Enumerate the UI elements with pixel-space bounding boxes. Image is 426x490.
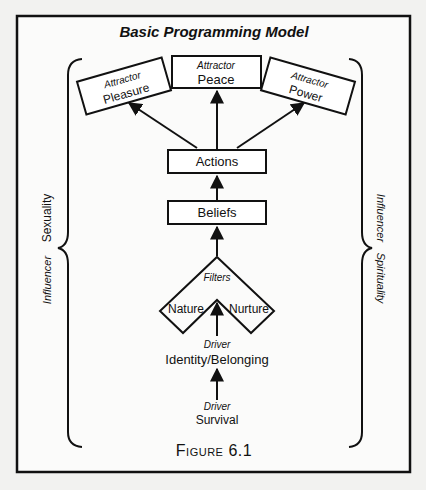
driver-survival-name: Survival bbox=[196, 413, 239, 427]
actions-label: Actions bbox=[196, 154, 239, 169]
filters-label: Filters bbox=[203, 272, 230, 283]
diagram-title: Basic Programming Model bbox=[119, 23, 309, 40]
driver-identity-label: Driver bbox=[204, 339, 231, 350]
attractor-peace-label: Attractor bbox=[196, 60, 235, 71]
influencer-left-name: Sexuality bbox=[40, 194, 54, 243]
driver-survival-label: Driver bbox=[204, 401, 231, 412]
beliefs-label: Beliefs bbox=[197, 205, 237, 220]
influencer-right-label: Influencer bbox=[375, 194, 387, 244]
beliefs-box: Beliefs bbox=[168, 201, 266, 224]
actions-box: Actions bbox=[168, 150, 266, 173]
figure-caption: Figure 6.1 bbox=[176, 442, 252, 459]
attractor-peace-name: Peace bbox=[198, 72, 235, 87]
diagram-canvas: Basic Programming Model Sexuality Influe… bbox=[0, 0, 426, 490]
driver-identity-name: Identity/Belonging bbox=[165, 352, 268, 367]
influencer-right-name: Spirituality bbox=[375, 253, 387, 305]
filter-nurture: Nurture bbox=[229, 302, 269, 316]
influencer-left-label: Influencer bbox=[41, 255, 53, 305]
filter-nature: Nature bbox=[168, 302, 204, 316]
attractor-peace-box: Attractor Peace bbox=[172, 56, 261, 88]
